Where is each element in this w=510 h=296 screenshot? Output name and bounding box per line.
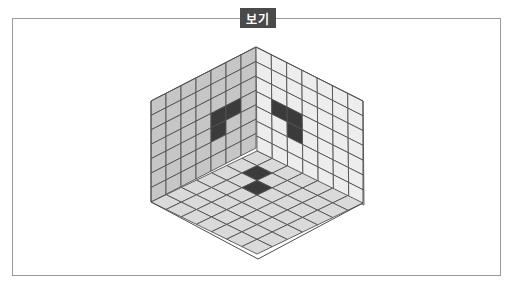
isometric-cube-corner-figure [0,0,510,296]
